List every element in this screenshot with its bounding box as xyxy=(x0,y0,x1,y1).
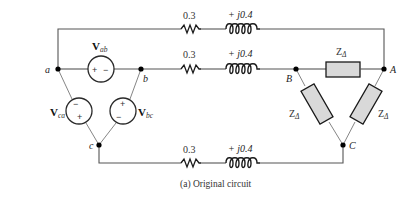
vbc-minus-sign: − xyxy=(116,112,121,122)
wire-a-to-vca xyxy=(58,69,72,99)
middle-resistor xyxy=(181,65,201,73)
middle-inductor xyxy=(226,64,260,74)
impedance-BA-label: ZΔ xyxy=(336,46,347,59)
load-delta: ZΔ ZΔ ZΔ A B C xyxy=(286,46,397,151)
node-A-label: A xyxy=(389,64,397,75)
vab-label: Vab xyxy=(92,40,108,54)
wire-B-to-zbc xyxy=(296,69,305,86)
middle-resistance-label: 0.3 xyxy=(183,49,196,60)
node-b xyxy=(138,66,143,71)
bottom-resistance-label: 0.3 xyxy=(183,144,196,155)
top-reactance-label: + j0.4 xyxy=(228,9,253,20)
node-a-label: a xyxy=(45,64,50,75)
source-vbc: + − Vbc xyxy=(110,98,154,124)
wire-b-to-vbc xyxy=(130,69,141,99)
impedance-BC-group xyxy=(301,84,333,124)
impedance-BC-label: ZΔ xyxy=(289,108,300,121)
middle-reactance-label: + j0.4 xyxy=(228,48,253,59)
source-vca: − + Vca xyxy=(50,98,92,124)
node-c xyxy=(96,142,101,147)
vca-label: Vca xyxy=(50,106,65,120)
impedance-BC xyxy=(301,84,333,124)
vca-plus-sign: + xyxy=(77,112,82,122)
vbc-plus-sign: + xyxy=(120,99,125,109)
figure-caption: (a) Original circuit xyxy=(180,179,252,190)
wire-zbc-to-C xyxy=(329,122,343,145)
bottom-resistor xyxy=(181,159,201,167)
wire-A-to-zac xyxy=(375,69,384,86)
node-B xyxy=(293,66,298,71)
node-C xyxy=(340,142,345,147)
top-resistor xyxy=(181,25,201,33)
impedance-BA xyxy=(326,62,360,77)
bottom-wire-left xyxy=(99,145,181,163)
vca-minus-sign: − xyxy=(73,99,78,109)
vab-minus-sign: − xyxy=(103,65,108,75)
wire-vbc-to-c xyxy=(99,123,116,145)
source-delta: + − Vab − + Vca + − Vbc a xyxy=(45,40,154,151)
bottom-line: 0.3 + j0.4 xyxy=(99,143,343,168)
node-C-label: C xyxy=(349,140,356,151)
vbc-label: Vbc xyxy=(138,106,154,120)
top-wire-left xyxy=(58,29,181,69)
vab-plus-sign: + xyxy=(92,65,97,75)
node-a xyxy=(55,66,60,71)
bottom-wire-right xyxy=(260,145,343,163)
top-wire-right xyxy=(260,29,384,69)
node-c-label: c xyxy=(89,140,94,151)
impedance-AC-label: ZΔ xyxy=(378,108,389,121)
three-phase-circuit-diagram: 0.3 + j0.4 0.3 + j0.4 0.3 + j0.4 + xyxy=(0,0,408,214)
bottom-inductor xyxy=(226,158,260,168)
top-resistance-label: 0.3 xyxy=(183,10,196,21)
bottom-reactance-label: + j0.4 xyxy=(228,143,253,154)
node-A xyxy=(381,66,386,71)
node-b-label: b xyxy=(143,73,148,84)
top-inductor xyxy=(226,24,260,34)
source-vab: + − Vab xyxy=(88,40,114,82)
node-B-label: B xyxy=(286,73,292,84)
